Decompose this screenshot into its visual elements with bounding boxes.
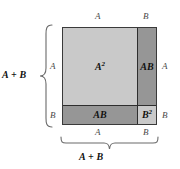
edge-label-right-b: B [162, 111, 168, 120]
region-ab-right-label: AB [140, 62, 153, 72]
expansion-diagram: A B A B A B A B A + B A + B A2 AB AB B2 [0, 0, 180, 169]
edge-label-right-a: A [162, 62, 168, 71]
edge-label-top-a: A [95, 12, 101, 21]
outer-square: A2 AB AB B2 [62, 27, 157, 125]
region-a-squared: A2 [63, 28, 137, 105]
region-b-squared: B2 [137, 105, 156, 124]
bottom-brace-icon [60, 136, 159, 150]
region-ab-right: AB [137, 28, 156, 105]
region-a-squared-label: A2 [95, 62, 105, 72]
region-b-squared-label: B2 [142, 110, 152, 120]
left-sum-label: A + B [2, 70, 27, 80]
edge-label-top-b: B [143, 12, 149, 21]
left-brace-icon [38, 24, 54, 128]
region-ab-bottom-label: AB [93, 110, 106, 120]
bottom-sum-label: A + B [79, 152, 104, 162]
region-ab-bottom: AB [63, 105, 137, 124]
